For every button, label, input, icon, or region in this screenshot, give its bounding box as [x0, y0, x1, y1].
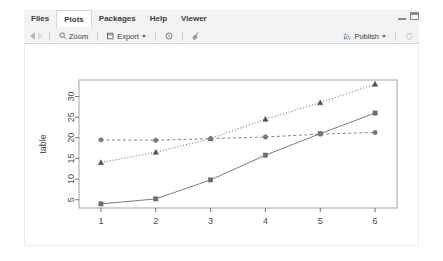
- toolbar-separator: [182, 31, 183, 41]
- x-axis-tick-label: 3: [208, 216, 213, 226]
- toolbar-separator: [49, 31, 50, 41]
- remove-plot-icon: [165, 32, 173, 40]
- y-axis-title: table: [38, 134, 48, 154]
- tab-files-label: Files: [31, 14, 49, 23]
- publish-icon: [343, 32, 352, 40]
- data-point-circle: [154, 138, 158, 142]
- data-point-triangle: [372, 81, 377, 86]
- broom-clear-all-icon: [192, 32, 200, 41]
- data-point-square: [208, 178, 212, 182]
- x-axis-tick-label: 2: [153, 216, 158, 226]
- data-point-circle: [208, 136, 212, 140]
- plot-canvas[interactable]: 51015202530table123456: [24, 45, 419, 245]
- chevron-down-icon: [142, 35, 146, 38]
- export-button-label: Export: [117, 32, 139, 41]
- plots-pane: Files Plots Packages Help Viewer: [0, 0, 443, 261]
- data-point-square: [99, 202, 103, 206]
- toolbar-right-group: Publish: [340, 28, 417, 44]
- publish-button-label: Publish: [354, 32, 379, 41]
- series-circle: [99, 130, 378, 142]
- data-point-triangle: [263, 116, 268, 121]
- tab-packages-label: Packages: [99, 14, 136, 23]
- maximize-icon[interactable]: [410, 12, 419, 20]
- data-point-circle: [99, 138, 103, 142]
- export-icon: [107, 32, 115, 40]
- x-axis-tick-label: 1: [98, 216, 103, 226]
- data-point-circle: [373, 130, 377, 134]
- data-point-circle: [318, 132, 322, 136]
- y-axis-tick-label: 20: [66, 133, 76, 143]
- y-axis-tick-label: 30: [66, 92, 76, 102]
- series-square: [99, 111, 377, 206]
- plot-border: [79, 80, 397, 208]
- series-line: [101, 113, 375, 204]
- plot-figure: 51015202530table123456: [25, 45, 420, 245]
- pane-tabs: Files Plots Packages Help Viewer: [24, 10, 214, 27]
- series-line: [101, 132, 375, 140]
- data-point-triangle: [98, 160, 103, 165]
- data-point-square: [154, 197, 158, 201]
- x-axis-tick-label: 4: [263, 216, 268, 226]
- window-controls: [398, 12, 419, 20]
- y-axis-tick-label: 10: [66, 174, 76, 184]
- export-button[interactable]: Export: [104, 31, 149, 42]
- toolbar-separator: [395, 31, 396, 41]
- clear-all-plots-button[interactable]: [189, 31, 203, 42]
- publish-button[interactable]: Publish: [340, 31, 389, 42]
- minimize-icon[interactable]: [398, 18, 406, 20]
- series-line: [101, 84, 375, 162]
- series-triangle: [98, 81, 377, 164]
- zoom-button[interactable]: Zoom: [56, 31, 91, 42]
- tab-files[interactable]: Files: [24, 10, 56, 27]
- data-point-circle: [263, 135, 267, 139]
- tab-help-label: Help: [150, 14, 167, 23]
- toolbar-separator: [97, 31, 98, 41]
- tab-plots-label: Plots: [64, 15, 84, 24]
- tab-packages[interactable]: Packages: [92, 10, 143, 27]
- refresh-icon: [405, 32, 414, 41]
- forward-arrow-icon[interactable]: [38, 32, 43, 40]
- tab-plots[interactable]: Plots: [56, 10, 92, 28]
- plot-pane-footer: [24, 245, 419, 261]
- data-point-square: [263, 153, 267, 157]
- toolbar-left-group: Zoom Export: [30, 28, 203, 44]
- remove-plot-button[interactable]: [162, 31, 176, 41]
- data-point-triangle: [318, 100, 323, 105]
- zoom-button-label: Zoom: [69, 32, 88, 41]
- x-axis-tick-label: 5: [318, 216, 323, 226]
- back-arrow-icon[interactable]: [30, 32, 35, 40]
- y-axis-tick-label: 5: [66, 197, 76, 202]
- tab-viewer-label: Viewer: [181, 14, 207, 23]
- data-point-square: [373, 111, 377, 115]
- y-axis-tick-label: 15: [66, 153, 76, 163]
- refresh-button[interactable]: [402, 31, 417, 42]
- chevron-down-icon: [382, 35, 386, 38]
- toolbar-separator: [155, 31, 156, 41]
- magnifier-icon: [59, 32, 67, 40]
- x-axis-tick-label: 6: [373, 216, 378, 226]
- tab-viewer[interactable]: Viewer: [174, 10, 214, 27]
- tab-help[interactable]: Help: [143, 10, 174, 27]
- y-axis-tick-label: 25: [66, 112, 76, 122]
